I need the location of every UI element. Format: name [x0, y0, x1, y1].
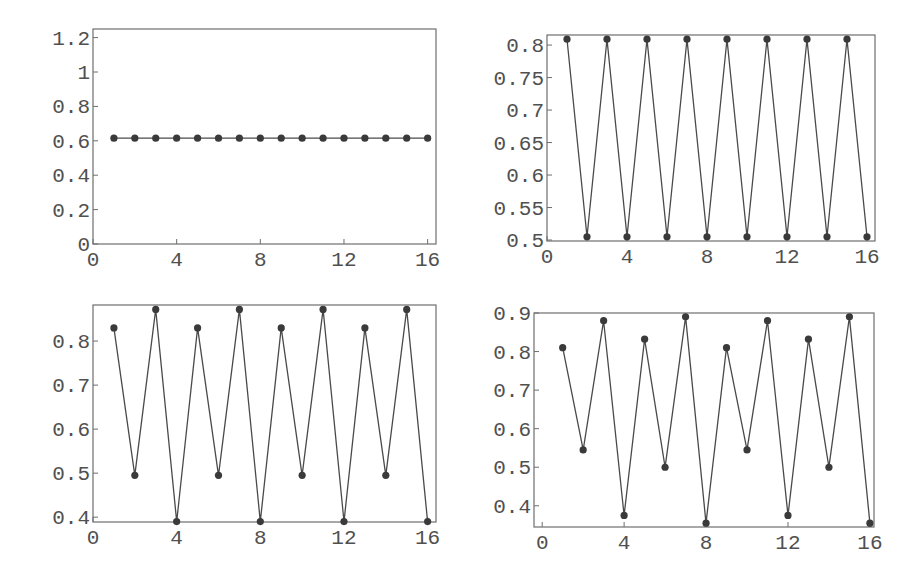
- data-point: [683, 36, 690, 43]
- x-tick-label: 4: [170, 249, 183, 272]
- data-point: [603, 36, 610, 43]
- data-point: [403, 135, 410, 142]
- chart-top-left: 00.20.40.60.811.20481216: [52, 28, 440, 272]
- series-line: [563, 317, 870, 523]
- y-tick-label: 0.6: [493, 419, 531, 442]
- x-tick-label: 12: [775, 532, 800, 555]
- data-point: [215, 472, 222, 479]
- x-tick-label: 16: [415, 527, 440, 550]
- data-point: [621, 512, 628, 519]
- y-tick-label: 0.65: [494, 133, 544, 156]
- data-point: [866, 520, 873, 527]
- x-tick-label: 4: [621, 246, 634, 269]
- data-point: [825, 464, 832, 471]
- data-point: [382, 472, 389, 479]
- data-point: [319, 306, 326, 313]
- data-point: [152, 306, 159, 313]
- x-tick-label: 16: [854, 246, 879, 269]
- data-point: [803, 36, 810, 43]
- data-point: [563, 36, 570, 43]
- x-tick-label: 12: [331, 249, 356, 272]
- data-point: [682, 313, 689, 320]
- data-point: [319, 135, 326, 142]
- data-point: [299, 135, 306, 142]
- y-tick-label: 0.8: [52, 96, 90, 119]
- x-tick-label: 0: [536, 532, 549, 555]
- data-point: [257, 135, 264, 142]
- data-point: [382, 135, 389, 142]
- y-tick-label: 0.7: [52, 375, 90, 398]
- x-tick-label: 0: [87, 527, 100, 550]
- data-point: [583, 233, 590, 240]
- data-point: [361, 135, 368, 142]
- data-point: [823, 233, 830, 240]
- data-point: [805, 336, 812, 343]
- data-point: [257, 518, 264, 525]
- plot-frame: [547, 35, 875, 241]
- y-tick-label: 0.5: [52, 463, 90, 486]
- y-tick-label: 0.75: [494, 68, 544, 91]
- figure-canvas: 00.20.40.60.811.20481216 0.50.550.60.650…: [0, 0, 919, 580]
- y-tick-label: 0.7: [493, 380, 531, 403]
- y-tick-label: 0.55: [494, 198, 544, 221]
- data-point: [173, 135, 180, 142]
- x-tick-label: 4: [170, 527, 183, 550]
- data-point: [702, 520, 709, 527]
- data-point: [846, 313, 853, 320]
- x-tick-label: 12: [331, 527, 356, 550]
- data-point: [340, 135, 347, 142]
- data-point: [643, 36, 650, 43]
- x-tick-label: 16: [415, 249, 440, 272]
- y-tick-label: 0.2: [52, 200, 90, 223]
- y-tick-label: 0.8: [52, 331, 90, 354]
- series-line: [114, 309, 428, 521]
- y-tick-label: 0.8: [493, 342, 531, 365]
- x-tick-label: 16: [857, 532, 882, 555]
- data-point: [783, 233, 790, 240]
- data-point: [723, 344, 730, 351]
- data-point: [236, 306, 243, 313]
- x-tick-label: 0: [541, 246, 554, 269]
- y-tick-label: 0.7: [506, 100, 544, 123]
- data-point: [278, 135, 285, 142]
- y-tick-label: 0.5: [506, 230, 544, 253]
- data-point: [236, 135, 243, 142]
- chart-bottom-right: 0.40.50.60.70.80.90481216: [493, 303, 882, 555]
- data-point: [663, 233, 670, 240]
- y-tick-label: 1: [77, 62, 90, 85]
- data-point: [424, 518, 431, 525]
- plot-frame: [93, 305, 436, 522]
- y-tick-label: 0.8: [506, 35, 544, 58]
- data-point: [403, 306, 410, 313]
- x-tick-label: 8: [700, 532, 713, 555]
- data-point: [600, 317, 607, 324]
- data-point: [110, 324, 117, 331]
- y-tick-label: 0.5: [493, 457, 531, 480]
- data-point: [743, 233, 750, 240]
- data-point: [215, 135, 222, 142]
- data-point: [110, 135, 117, 142]
- data-point: [743, 446, 750, 453]
- x-tick-label: 12: [774, 246, 799, 269]
- data-point: [361, 324, 368, 331]
- series-line: [567, 39, 867, 237]
- data-point: [152, 135, 159, 142]
- data-point: [299, 472, 306, 479]
- y-tick-label: 0.9: [493, 303, 531, 326]
- data-point: [784, 512, 791, 519]
- data-point: [661, 464, 668, 471]
- x-tick-label: 8: [254, 527, 267, 550]
- x-tick-label: 8: [254, 249, 267, 272]
- data-point: [194, 324, 201, 331]
- x-tick-label: 4: [618, 532, 631, 555]
- data-point: [278, 324, 285, 331]
- chart-top-right: 0.50.550.60.650.70.750.80481216: [494, 35, 880, 269]
- data-point: [641, 336, 648, 343]
- y-tick-label: 1.2: [52, 28, 90, 51]
- data-point: [340, 518, 347, 525]
- x-tick-label: 0: [87, 249, 100, 272]
- y-tick-label: 0.4: [493, 496, 531, 519]
- data-point: [131, 472, 138, 479]
- plot-frame: [534, 313, 874, 527]
- data-point: [703, 233, 710, 240]
